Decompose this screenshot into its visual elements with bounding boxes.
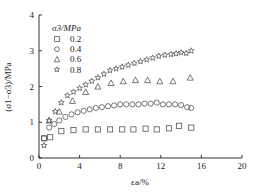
x-tick-label: 0: [37, 161, 42, 171]
square-marker: [143, 126, 148, 131]
y-axis-label: (σ1−σ3)/MPa: [3, 62, 13, 111]
star-marker: [125, 62, 131, 67]
star-marker: [150, 55, 156, 60]
circle-marker: [87, 107, 92, 112]
star-marker: [138, 58, 144, 63]
triangle-marker: [132, 77, 138, 83]
star-marker: [71, 89, 77, 94]
triangle-marker: [69, 98, 75, 104]
star-marker: [144, 57, 150, 62]
star-marker: [162, 52, 168, 57]
circle-marker: [69, 112, 74, 117]
square-marker: [176, 123, 181, 128]
circle-marker: [154, 100, 159, 105]
y-tick-label: 2: [30, 82, 35, 92]
x-tick-label: 4: [77, 161, 82, 171]
series-0.6: [46, 75, 193, 124]
star-marker: [101, 71, 107, 76]
series-0.4: [41, 100, 193, 141]
square-marker: [71, 128, 76, 133]
circle-marker: [57, 118, 62, 123]
triangle-marker: [187, 75, 193, 81]
square-marker: [95, 127, 100, 132]
circle-marker: [105, 104, 110, 109]
circle-marker: [75, 110, 80, 115]
data-points: [41, 48, 194, 148]
x-tick-label: 12: [156, 161, 165, 171]
square-marker: [83, 127, 88, 132]
legend-label: 0.4: [70, 44, 82, 54]
star-marker: [65, 92, 71, 97]
star-marker: [168, 51, 174, 56]
square-marker: [59, 129, 64, 134]
star-marker: [183, 50, 189, 55]
star-marker: [113, 66, 119, 71]
triangle-marker: [95, 84, 101, 90]
star-marker: [119, 64, 125, 69]
star-marker: [89, 78, 95, 83]
circle-marker: [160, 102, 165, 107]
circle-marker: [93, 105, 98, 110]
circle-marker: [142, 101, 147, 106]
triangle-marker: [54, 57, 60, 62]
star-marker: [46, 117, 52, 122]
circle-marker: [99, 105, 104, 110]
y-tick-label: 4: [30, 10, 35, 20]
legend-label: 0.6: [70, 54, 82, 64]
circle-marker: [124, 102, 129, 107]
star-marker: [95, 75, 101, 80]
triangle-marker: [170, 78, 176, 84]
y-tick-label: 1: [30, 117, 35, 127]
square-marker: [107, 127, 112, 132]
circle-marker: [166, 102, 171, 107]
x-tick-label: 8: [118, 161, 123, 171]
triangle-marker: [157, 78, 163, 84]
circle-marker: [136, 102, 141, 107]
circle-marker: [81, 108, 86, 113]
legend-title: σ3/MPa: [52, 23, 81, 33]
circle-marker: [112, 103, 117, 108]
legend-item-0.4: 0.4: [55, 44, 82, 54]
square-marker: [131, 127, 136, 132]
y-tick-label: 0: [30, 153, 35, 163]
series-0.2: [41, 123, 193, 141]
legend: σ3/MPa0.20.40.60.8: [52, 23, 82, 75]
legend-label: 0.8: [70, 65, 82, 75]
stress-strain-chart: 04812162001234 σ3/MPa0.20.40.60.8 εa/% (…: [0, 0, 259, 194]
triangle-marker: [83, 89, 89, 95]
square-marker: [154, 127, 159, 132]
circle-marker: [148, 101, 153, 106]
star-marker: [41, 142, 47, 147]
circle-marker: [52, 121, 57, 126]
legend-item-0.6: 0.6: [54, 54, 82, 64]
star-marker: [77, 85, 83, 90]
square-marker: [189, 125, 194, 130]
circle-marker: [130, 102, 135, 107]
y-tick-label: 3: [30, 46, 35, 56]
triangle-marker: [108, 80, 114, 86]
circle-marker: [179, 102, 184, 107]
legend-item-0.8: 0.8: [54, 65, 81, 75]
circle-marker: [47, 125, 52, 130]
triangle-marker: [145, 77, 151, 83]
legend-item-0.2: 0.2: [55, 34, 82, 44]
star-marker: [156, 53, 162, 58]
circle-marker: [172, 102, 177, 107]
triangle-marker: [120, 78, 126, 84]
x-tick-label: 20: [238, 161, 248, 171]
circle-marker: [41, 136, 46, 141]
circle-marker: [55, 47, 60, 52]
x-axis-label: εa/%: [131, 177, 149, 187]
star-marker: [58, 100, 64, 105]
circle-marker: [63, 114, 68, 119]
x-tick-label: 16: [197, 161, 207, 171]
star-marker: [83, 82, 89, 87]
axes: 04812162001234: [30, 10, 248, 171]
star-marker: [54, 67, 59, 72]
circle-marker: [118, 102, 123, 107]
legend-label: 0.2: [70, 34, 81, 44]
star-marker: [107, 67, 113, 72]
star-marker: [132, 60, 138, 65]
chart-canvas: 04812162001234 σ3/MPa0.20.40.60.8 εa/% (…: [0, 0, 259, 194]
square-marker: [166, 126, 171, 131]
